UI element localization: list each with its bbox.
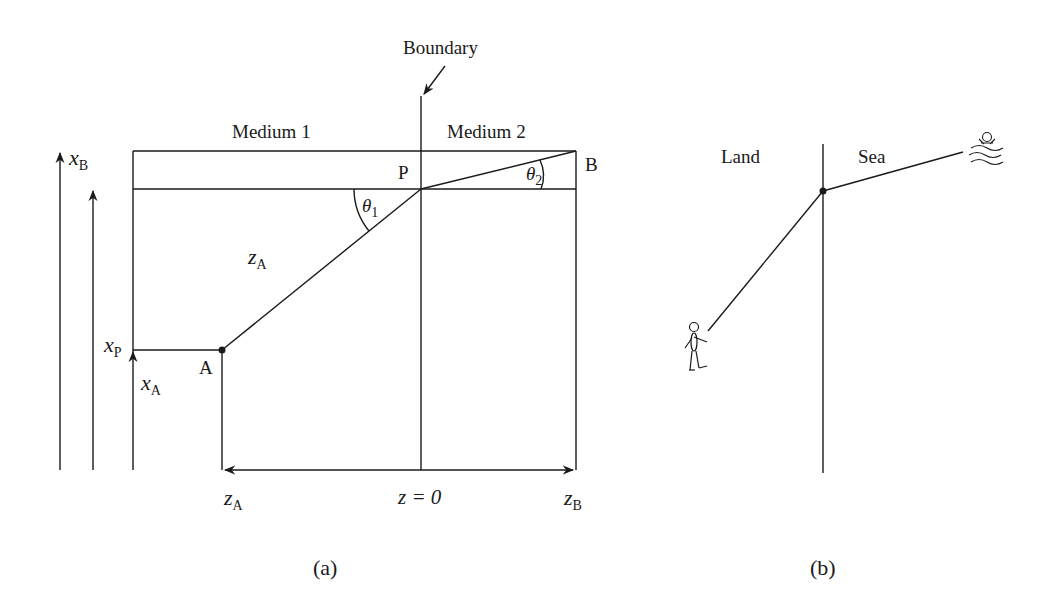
- boundary-pointer-arrow: [424, 66, 445, 94]
- x-p-label: xP: [104, 334, 122, 356]
- z-a-path-label: zA: [248, 246, 267, 268]
- point-a-dot: [219, 347, 225, 353]
- shore-point-dot: [820, 188, 826, 194]
- theta2-label: θ2: [526, 164, 542, 183]
- sea-label: Sea: [858, 147, 885, 166]
- boundary-label: Boundary: [403, 38, 478, 57]
- panel-a-caption: (a): [313, 557, 337, 579]
- ray-p-to-b: [421, 151, 576, 189]
- sea-path: [823, 152, 963, 191]
- point-b-label: B: [585, 155, 598, 174]
- panel-b-caption: (b): [810, 557, 836, 579]
- person-icon: [685, 323, 707, 371]
- theta1-label: θ1: [362, 196, 378, 215]
- point-a-label: A: [199, 358, 213, 377]
- x-b-label: xB: [69, 147, 88, 169]
- z-b-axis-label: zB: [564, 487, 582, 509]
- z-a-axis-label: zA: [224, 487, 243, 509]
- land-path: [708, 191, 823, 331]
- point-p-label: P: [398, 163, 409, 182]
- ray-a-to-p: [222, 189, 421, 350]
- swimmer-icon: [969, 133, 1003, 165]
- x-a-label: xA: [141, 372, 161, 394]
- figure-canvas: [0, 0, 1052, 610]
- land-label: Land: [721, 147, 760, 166]
- panel-b-geometry: [708, 144, 963, 473]
- medium2-label: Medium 2: [447, 122, 526, 141]
- z-zero-label: z = 0: [398, 487, 441, 508]
- medium1-label: Medium 1: [232, 122, 311, 141]
